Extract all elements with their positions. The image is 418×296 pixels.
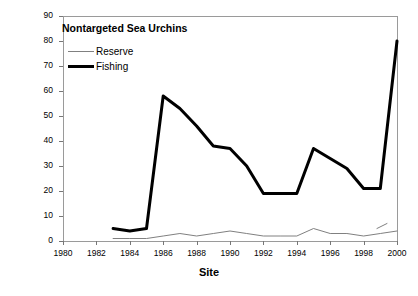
y-tick-label: 20 (31, 185, 53, 195)
y-tick-label: 80 (31, 35, 53, 45)
data-line-segment-0 (377, 224, 387, 229)
y-tick-label: 30 (31, 160, 53, 170)
x-tick-label: 1982 (79, 248, 113, 258)
x-tick-label: 1992 (246, 248, 280, 258)
legend-line-icon-fishing (68, 65, 94, 68)
legend-label-fishing: Fishing (96, 59, 128, 74)
x-tick-label: 1996 (313, 248, 347, 258)
y-tick-label: 60 (31, 85, 53, 95)
x-tick-label: 2000 (380, 248, 414, 258)
y-tick-label: 90 (31, 10, 53, 20)
y-tick-label: 70 (31, 60, 53, 70)
x-tick-label: 1986 (146, 248, 180, 258)
x-tick-label: 1980 (46, 248, 80, 258)
x-tick-label: 1994 (280, 248, 314, 258)
x-tick-label: 1984 (113, 248, 147, 258)
y-tick-label: 50 (31, 110, 53, 120)
x-tick-label: 1998 (347, 248, 381, 258)
data-line-reserve (113, 229, 397, 239)
chart-title: Nontargeted Sea Urchins (62, 22, 187, 34)
legend-item-fishing: Fishing (68, 59, 188, 74)
x-tick-label: 1988 (180, 248, 214, 258)
y-tick-label: 0 (31, 235, 53, 245)
chart-legend: Reserve Fishing (68, 44, 188, 74)
legend-line-icon-reserve (68, 51, 94, 52)
chart-figure: Number Per Sq. Meter Site Nontargeted Se… (0, 0, 418, 296)
x-tick-label: 1990 (213, 248, 247, 258)
legend-item-reserve: Reserve (68, 44, 188, 59)
y-tick-label: 40 (31, 135, 53, 145)
legend-label-reserve: Reserve (96, 44, 133, 59)
y-tick-label: 10 (31, 210, 53, 220)
